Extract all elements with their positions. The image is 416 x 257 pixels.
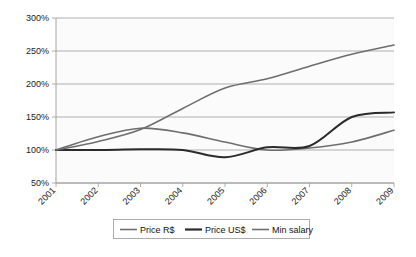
legend-label: Price US$ (205, 225, 246, 235)
chart-container: 300%250%200%150%100%50% 2001200220032004… (0, 0, 416, 257)
y-tick-label: 50% (31, 178, 49, 188)
y-tick-label: 300% (26, 13, 49, 23)
legend-items: Price R$Price US$Min salary (120, 225, 314, 235)
chart-legend: Price R$Price US$Min salary (114, 220, 314, 239)
line-chart: 300%250%200%150%100%50% 2001200220032004… (0, 0, 416, 257)
y-tick-label: 150% (26, 112, 49, 122)
y-tick-label: 200% (26, 79, 49, 89)
legend-label: Min salary (272, 225, 314, 235)
legend-label: Price R$ (140, 225, 175, 235)
y-tick-label: 250% (26, 46, 49, 56)
y-tick-label: 100% (26, 145, 49, 155)
